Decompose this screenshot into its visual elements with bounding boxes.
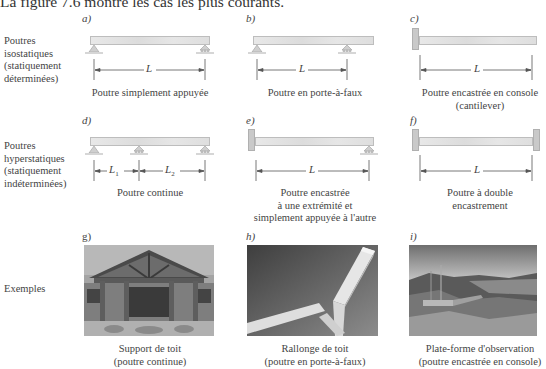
caption-h: Rallonge de toit (poutre en porte-à-faux… [230,343,400,368]
caption-i: Plate-forme d'observation (poutre encast… [395,343,546,368]
caption-line: Plate-forme d'observation [395,343,546,356]
caption-g: Support de toit (poutre continue) [60,343,240,368]
caption-line: Support de toit [60,343,240,356]
caption-line: Rallonge de toit [230,343,400,356]
panel-letter-h: h) [246,230,255,242]
observation-platform-photo [409,245,537,336]
dim-label-L: L [474,163,480,175]
panel-letter-g: g) [82,230,91,242]
caption-line: encastrement [400,200,546,213]
caption-line: (poutre continue) [60,356,240,369]
caption-line: (poutre encastrée en console) [395,356,546,369]
roof-extension-photo [247,245,378,336]
caption-f: Poutre à double encastrement [400,187,546,212]
caption-line: Poutre à double [400,187,546,200]
caption-line: (poutre en porte-à-faux) [230,356,400,369]
panel-letter-i: i) [410,230,417,242]
roof-support-photo [84,245,214,336]
